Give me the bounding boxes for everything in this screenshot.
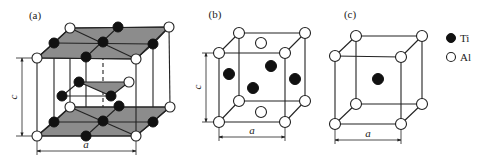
al-atom-icon xyxy=(256,38,267,49)
ti-atom-icon xyxy=(106,91,116,101)
al-atom-icon xyxy=(65,102,75,112)
ti-legend-icon xyxy=(447,34,456,43)
ti-atom-icon xyxy=(148,117,158,127)
al-atom-icon xyxy=(164,22,174,32)
ti-atom-icon xyxy=(98,37,108,47)
ti-atom-icon xyxy=(49,38,59,48)
panel-c-cubic-cell: (c) a xyxy=(330,8,428,144)
ti-atom-icon xyxy=(290,74,301,85)
al-atom-icon xyxy=(234,96,245,107)
ti-atom-icon xyxy=(224,69,235,80)
al-atom-icon xyxy=(396,119,407,130)
legend-ti-label: Ti xyxy=(460,32,469,44)
al-atom-icon xyxy=(234,28,245,39)
crystal-structure-figure: (a) c xyxy=(0,0,481,162)
ti-atom-icon xyxy=(266,61,277,72)
ti-atom-icon xyxy=(114,101,124,111)
al-atom-icon xyxy=(124,77,134,87)
al-atom-icon xyxy=(165,102,175,112)
panel-c-a-label: a xyxy=(365,127,371,139)
ti-atom-icon xyxy=(49,117,59,127)
al-atom-icon xyxy=(32,131,42,141)
al-atom-icon xyxy=(131,54,141,64)
al-atom-icon xyxy=(417,99,428,110)
al-legend-icon xyxy=(447,53,456,62)
panel-c-label: (c) xyxy=(344,8,357,21)
panel-b-c-label: c xyxy=(191,84,203,89)
ti-atom-icon xyxy=(373,74,384,85)
ti-atom-icon xyxy=(148,39,158,49)
panel-b-a-label: a xyxy=(249,124,255,136)
ti-atom-icon xyxy=(57,91,67,101)
panel-a-c-label: c xyxy=(7,94,19,99)
al-atom-icon xyxy=(351,31,362,42)
al-atom-icon xyxy=(214,48,225,59)
ti-atom-icon xyxy=(81,52,91,62)
al-atom-icon xyxy=(131,131,141,141)
al-atom-icon xyxy=(280,117,291,128)
al-atom-icon xyxy=(32,53,42,63)
al-atom-icon xyxy=(330,51,341,62)
al-atom-icon xyxy=(417,31,428,42)
legend: Ti Al xyxy=(447,32,472,63)
al-atom-icon xyxy=(256,107,267,118)
al-atom-icon xyxy=(214,117,225,128)
legend-al-label: Al xyxy=(460,51,471,63)
ti-atom-icon xyxy=(113,22,123,32)
ti-atom-icon xyxy=(248,83,259,94)
panel-a-label: (a) xyxy=(29,9,42,22)
panel-b-tetragonal-cell: (b) c a xyxy=(191,8,311,141)
al-atom-icon xyxy=(330,119,341,130)
al-atom-icon xyxy=(351,99,362,110)
al-atom-icon xyxy=(65,23,75,33)
al-atom-icon xyxy=(300,96,311,107)
al-atom-icon xyxy=(396,52,407,63)
panel-b-label: (b) xyxy=(209,8,222,21)
ti-atom-icon xyxy=(81,131,91,141)
panel-a-hexagonal-cell: (a) c xyxy=(7,9,175,155)
al-atom-icon xyxy=(300,28,311,39)
al-atom-icon xyxy=(280,48,291,59)
ti-atom-icon xyxy=(98,116,108,126)
ti-atom-icon xyxy=(74,77,84,87)
